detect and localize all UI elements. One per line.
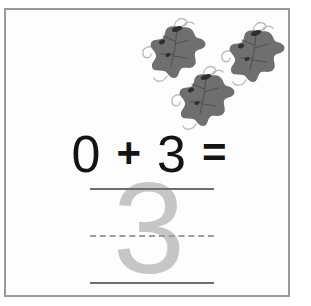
handwriting-guide-line-top [90, 188, 214, 190]
grape-leaf-icon [216, 18, 290, 88]
grape-leaf-cluster [6, 10, 292, 130]
handwriting-guide-line-bottom [90, 282, 214, 284]
worksheet-card: 0 + 3 = 3 [4, 8, 290, 297]
trace-numeral-answer: 3 [6, 163, 292, 293]
handwriting-guide-line-middle-dashed [90, 235, 214, 237]
worksheet-page: 0 + 3 = 3 [0, 0, 311, 306]
grape-leaf-icon [137, 14, 211, 84]
grape-leaf-icon [166, 62, 240, 132]
answer-tracing-area[interactable]: 3 [6, 185, 292, 297]
